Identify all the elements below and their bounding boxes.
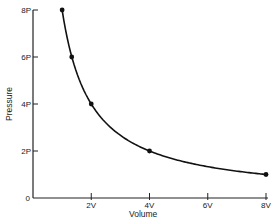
x-tick-label: 8V (261, 201, 271, 210)
data-point-marker (69, 55, 74, 60)
data-point-marker (89, 102, 94, 107)
y-tick-label: 8P (21, 6, 31, 15)
axes (33, 10, 268, 200)
y-axis-title: Pressure (4, 87, 14, 121)
x-tick-label: 6V (203, 201, 213, 210)
y-tick-label: 6P (21, 53, 31, 62)
pressure-volume-chart: 2P4P6P8P02V4V6V8V Volume Pressure (0, 0, 278, 224)
data-point-marker (60, 8, 65, 13)
data-point-marker (264, 172, 269, 177)
axis-labels: 2P4P6P8P02V4V6V8V (21, 6, 271, 210)
origin-label: 0 (26, 194, 31, 203)
data-point-marker (147, 149, 152, 154)
x-axis-title: Volume (129, 209, 158, 219)
y-tick-label: 4P (21, 100, 31, 109)
pressure-volume-curve (62, 10, 266, 175)
y-tick-label: 2P (21, 147, 31, 156)
data-curve (62, 10, 266, 175)
x-tick-label: 2V (86, 201, 96, 210)
data-points (60, 8, 269, 177)
